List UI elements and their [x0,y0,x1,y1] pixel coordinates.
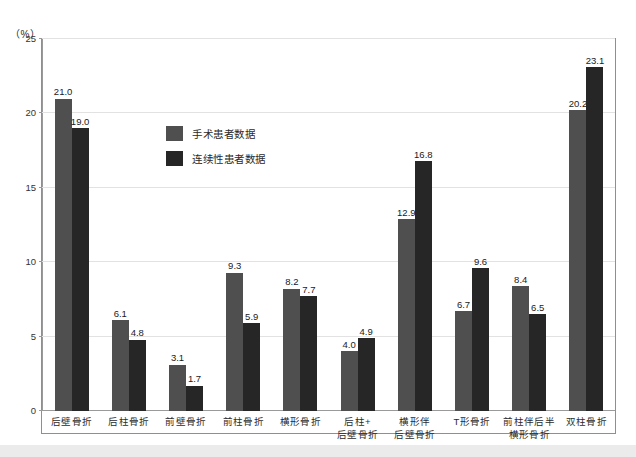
bar-value-label: 19.0 [71,117,90,127]
bar-group: 8.46.5 [501,39,558,411]
bar-value-label: 8.2 [285,277,298,287]
bar-value-label: 5.9 [245,312,258,322]
bar-value-label: 16.8 [414,150,433,160]
bar-value-label: 8.4 [514,275,527,285]
bar-value-label: 4.0 [343,340,356,350]
legend-label-operative: 手术患者数据 [192,126,255,141]
bar-value-label: 4.9 [360,327,373,337]
bar-group: 6.79.6 [443,39,500,411]
chart-legend: 手术患者数据 连续性患者数据 [166,126,266,166]
y-tick-mark-25 [39,38,42,39]
legend-item-consecutive[interactable]: 连续性患者数据 [166,151,266,166]
y-tick-mark-10 [39,261,42,262]
x-axis-label-line: 后壁骨折 [43,415,100,428]
bar[interactable]: 6.1 [112,320,129,411]
y-tick-label-10: 10 [25,256,36,267]
bar[interactable]: 1.7 [186,386,203,411]
y-tick-label-20: 20 [25,107,36,118]
bar[interactable]: 16.8 [415,161,432,411]
bar-value-label: 23.1 [586,56,605,66]
y-tick-label-25: 25 [25,33,36,44]
bar[interactable]: 8.4 [512,286,529,411]
bar-group: 12.916.8 [386,39,443,411]
bar[interactable]: 20.2 [569,110,586,411]
legend-swatch-icon-consecutive [166,151,183,166]
bar-value-label: 4.8 [131,328,144,338]
bar-value-label: 12.9 [397,208,416,218]
clipped-caption-strip [0,445,636,457]
bar-value-label: 21.0 [54,87,73,97]
plot-area: 0510152025 21.019.06.14.83.11.79.35.98.2… [42,39,615,411]
bar-value-label: 7.7 [302,285,315,295]
x-axis-label-line: 后壁骨折 [329,428,386,441]
bar-value-label: 9.6 [474,257,487,267]
bar-group: 6.14.8 [100,39,157,411]
x-axis-label-line: 横形伴 [386,415,443,428]
x-axis-label-line: 后壁骨折 [386,428,443,441]
bar[interactable]: 4.9 [358,338,375,411]
bar-groups: 21.019.06.14.83.11.79.35.98.27.74.04.912… [43,39,615,411]
bar[interactable]: 12.9 [398,219,415,411]
x-axis-label-line: 后柱+ [329,415,386,428]
y-tick-label-5: 5 [31,330,36,341]
bar-value-label: 6.7 [457,300,470,310]
bar[interactable]: 23.1 [586,67,603,411]
bar[interactable]: 6.5 [529,314,546,411]
y-tick-mark-5 [39,336,42,337]
bar[interactable]: 4.0 [341,351,358,411]
x-axis-label-line: T形骨折 [443,415,500,428]
bar[interactable]: 5.9 [243,323,260,411]
legend-item-operative[interactable]: 手术患者数据 [166,126,266,141]
bar-value-label: 20.2 [569,99,588,109]
bar[interactable]: 21.0 [55,99,72,411]
x-axis-label-line: 后柱骨折 [100,415,157,428]
x-axis-label-line: 前壁骨折 [157,415,214,428]
bar-group: 3.11.7 [157,39,214,411]
y-tick-mark-15 [39,187,42,188]
bar-group: 8.27.7 [272,39,329,411]
bar-value-label: 3.1 [171,353,184,363]
bar-group: 21.019.0 [43,39,100,411]
x-axis-label-line: 横形骨折 [501,428,558,441]
legend-swatch-icon-operative [166,126,183,141]
y-tick-label-0: 0 [31,405,36,416]
bar-group: 20.223.1 [558,39,615,411]
bar[interactable]: 8.2 [283,289,300,411]
legend-label-consecutive: 连续性患者数据 [192,151,266,166]
x-axis-label-line: 前柱骨折 [215,415,272,428]
bar[interactable]: 9.6 [472,268,489,411]
bar[interactable]: 19.0 [72,128,89,411]
chart-figure: （%） 0510152025 21.019.06.14.83.11.79.35.… [0,0,636,457]
bar-value-label: 6.1 [114,309,127,319]
bar[interactable]: 9.3 [226,273,243,411]
bar-value-label: 1.7 [188,374,201,384]
x-axis-label-line: 横形骨折 [272,415,329,428]
bar[interactable]: 3.1 [169,365,186,411]
bar-value-label: 9.3 [228,261,241,271]
bar-group: 4.04.9 [329,39,386,411]
x-axis-label-line: 双柱骨折 [558,415,615,428]
bar[interactable]: 4.8 [129,340,146,411]
x-axis-label-line: 前柱伴后半 [501,415,558,428]
y-tick-mark-0 [39,410,42,411]
bar[interactable]: 6.7 [455,311,472,411]
bar-value-label: 6.5 [531,303,544,313]
y-tick-mark-20 [39,112,42,113]
y-tick-label-15: 15 [25,181,36,192]
bar[interactable]: 7.7 [300,296,317,411]
bar-group: 9.35.9 [215,39,272,411]
